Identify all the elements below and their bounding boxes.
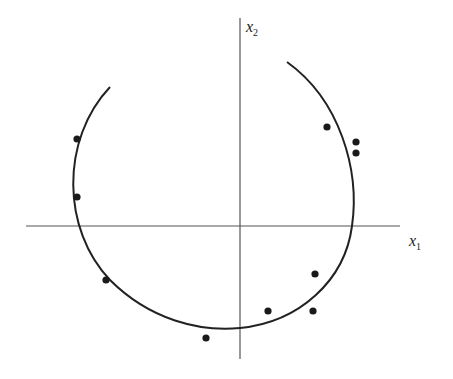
data-point	[73, 193, 80, 200]
data-point	[352, 149, 359, 156]
x1-label-subscript: 1	[416, 241, 421, 252]
data-point	[102, 276, 109, 283]
data-point	[352, 138, 359, 145]
data-points	[73, 123, 359, 341]
x2-axis-label: x2	[246, 18, 258, 38]
data-point	[264, 307, 271, 314]
x2-label-subscript: 2	[253, 27, 258, 38]
x1-axis-label: x1	[409, 232, 421, 252]
circle-arc	[73, 62, 353, 329]
data-point	[311, 270, 318, 277]
data-point	[323, 123, 330, 130]
data-point	[73, 135, 80, 142]
data-point	[309, 307, 316, 314]
diagram-canvas	[0, 0, 453, 379]
data-point	[202, 334, 209, 341]
